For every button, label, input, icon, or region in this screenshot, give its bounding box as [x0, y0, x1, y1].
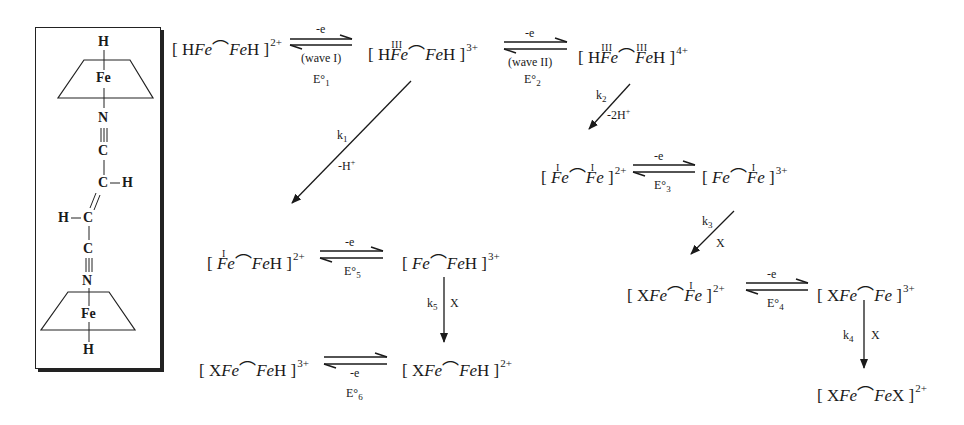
e-standard: E°: [654, 178, 666, 192]
bridge-symbol: ⌒: [430, 254, 447, 273]
species-prefix: [ H: [172, 40, 194, 59]
fe-atom: Fe: [551, 168, 569, 187]
fe-atom: Fe: [252, 254, 270, 273]
species-hfefeh-3plus: [ HFeIII⌒FeH ]3+: [368, 37, 478, 65]
bridge-symbol: ⌒: [239, 361, 256, 380]
species-prefix: [: [402, 254, 412, 273]
species-suffix: H ]: [443, 45, 465, 64]
fe-atom: Fe: [839, 286, 857, 305]
fe-atom: Fe: [194, 40, 212, 59]
species-prefix: [: [702, 168, 712, 187]
charge: 3+: [776, 164, 788, 176]
bridge-symbol: ⌒: [857, 286, 874, 305]
label-k1-condition: -H+: [338, 158, 355, 174]
atom-h-left: H: [58, 210, 69, 226]
charge: 3+: [903, 282, 915, 294]
species-suffix: H ]: [270, 254, 292, 273]
bridge-symbol: ⌒: [442, 361, 459, 380]
fe-atom: Fe: [229, 40, 247, 59]
label-e3-potential: E°3: [654, 178, 671, 194]
species-fefeh-3plus: [ Fe⌒FeH ]3+: [402, 246, 500, 274]
atom-n-top: N: [98, 110, 108, 126]
condition-sup: +: [626, 107, 631, 116]
species-suffix: X ]: [892, 386, 914, 405]
oxidation-state: III: [636, 38, 648, 58]
atom-c2: C: [98, 175, 108, 191]
fe-atom: Fe: [447, 254, 465, 273]
bridge-symbol: ⌒: [667, 286, 684, 305]
k-subscript: 1: [343, 134, 348, 144]
fe-atom: Fe: [874, 286, 892, 305]
label-k3: k3: [702, 214, 713, 230]
atom-c3: C: [83, 210, 93, 226]
label-k2: k2: [596, 88, 607, 104]
species-xfefe-2plus: [ XFe⌒FeI ]2+: [627, 278, 725, 306]
label-e3-electron: -e: [654, 149, 663, 164]
species-prefix: [ H: [578, 48, 600, 67]
species-prefix: [ X: [402, 361, 424, 380]
fe-atom: Fe: [839, 386, 857, 405]
k-subscript: 4: [849, 334, 854, 344]
bridge-symbol: ⌒: [730, 168, 747, 187]
species-xfefe-3plus: [ XFe⌒Fe ]3+: [817, 278, 915, 306]
label-e5-potential: E°5: [344, 264, 361, 280]
atom-c4: C: [83, 241, 93, 257]
bridge-symbol: ⌒: [569, 168, 586, 187]
charge: 2+: [500, 357, 512, 369]
atom-fe-bottom: Fe: [81, 306, 96, 322]
charge: 2+: [915, 382, 927, 394]
atom-c1: C: [98, 143, 108, 159]
condition-text: -H: [338, 159, 351, 173]
species-xfefex-2plus: [ XFe⌒FeX ]2+: [817, 378, 927, 406]
label-k2-condition: -2H+: [607, 107, 630, 123]
species-hfefeh-2plus: [ HFe⌒FeH ]2+: [172, 32, 282, 60]
atom-h-top: H: [98, 34, 109, 50]
bridge-symbol: ⌒: [212, 40, 229, 59]
fe-atom: Fe: [217, 254, 235, 273]
species-fefe-2plus: [ FeI⌒FeI ]2+: [541, 160, 626, 188]
label-wave-2: (wave II): [508, 55, 552, 70]
label-e6-electron: -e: [350, 366, 359, 381]
fe-atom: Fe: [712, 168, 730, 187]
k-subscript: 5: [433, 302, 438, 312]
condition-text: -2H: [607, 108, 626, 122]
e-subscript: 2: [536, 78, 541, 88]
species-xfefeh-3plus: [ XFe⌒FeH ]3+: [199, 353, 309, 381]
fe-atom: Fe: [221, 361, 239, 380]
bridge-symbol: ⌒: [857, 386, 874, 405]
e-standard: E°: [344, 264, 356, 278]
label-e4-potential: E°4: [767, 296, 784, 312]
charge: 3+: [466, 41, 478, 53]
e-subscript: 5: [356, 270, 361, 280]
species-prefix: [: [207, 254, 217, 273]
charge: 2+: [713, 282, 725, 294]
e-standard: E°: [524, 72, 536, 86]
species-prefix: [: [541, 168, 551, 187]
species-suffix: ]: [892, 286, 902, 305]
species-suffix: ]: [702, 286, 712, 305]
label-k5-condition: X: [450, 296, 459, 311]
oxidation-state: I: [222, 244, 226, 264]
fe-atom: Fe: [256, 361, 274, 380]
e-subscript: 6: [358, 392, 363, 402]
e-subscript: 4: [779, 302, 784, 312]
oxidation-state: I: [689, 276, 693, 296]
k-subscript: 3: [708, 220, 713, 230]
bridge-symbol: ⌒: [618, 48, 635, 67]
species-suffix: H ]: [274, 361, 296, 380]
label-k5: k5: [427, 296, 438, 312]
atom-h-bottom: H: [83, 342, 94, 358]
label-e4-electron: -e: [767, 267, 776, 282]
label-wave-1: (wave I): [301, 51, 341, 66]
species-suffix: H ]: [477, 361, 499, 380]
charge: 3+: [488, 250, 500, 262]
species-xfefeh-2plus: [ XFe⌒FeH ]2+: [402, 353, 512, 381]
species-prefix: [ X: [817, 386, 839, 405]
charge: 2+: [615, 164, 627, 176]
e-standard: E°: [313, 72, 325, 86]
label-e6-potential: E°6: [346, 386, 363, 402]
species-suffix: H ]: [653, 48, 675, 67]
species-fefe-3plus: [ Fe⌒FeI ]3+: [702, 160, 787, 188]
species-hfefeh-4plus: [ HFeIII⌒FeIIIH ]4+: [578, 40, 688, 68]
fe-atom: Fe: [425, 45, 443, 64]
